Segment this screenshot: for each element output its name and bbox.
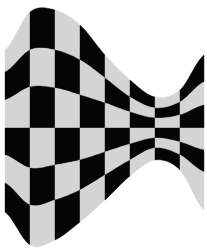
flag-cell-light <box>30 200 55 247</box>
checkered-flag-graphic <box>0 0 207 251</box>
flag-cell-light <box>30 128 55 168</box>
flag-cell-dark <box>30 8 55 50</box>
flag-cell-light <box>55 88 80 128</box>
flag-cell-light <box>30 48 55 88</box>
flag-cell-dark <box>30 86 55 128</box>
flag-cell-dark <box>30 165 55 206</box>
flag-cell-dark <box>55 128 80 165</box>
